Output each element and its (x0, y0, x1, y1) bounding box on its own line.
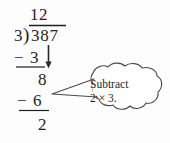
division-bracket-icon: ) (23, 25, 30, 44)
divisor-value: 3 (14, 27, 23, 44)
figure-vector-layer (0, 0, 170, 143)
partial-remainder-value: 8 (38, 71, 47, 88)
subtrahend-1-value: 3 (30, 49, 39, 66)
quotient-value: 12 (30, 6, 48, 23)
subtrahend-1-sign: − (14, 49, 24, 66)
final-remainder-value: 2 (38, 116, 47, 133)
callout-line-1: Subtract (90, 78, 128, 92)
subtrahend-2-value: 6 (33, 92, 42, 109)
long-division-figure: 12 3 ) 387 − 3 8 − 6 2 Subtract 2 × 3. (0, 0, 170, 143)
dividend-value: 387 (31, 27, 59, 44)
callout-line-2: 2 × 3. (90, 92, 117, 106)
subtrahend-2-sign: − (17, 92, 27, 109)
bring-down-arrow-icon (45, 45, 51, 69)
